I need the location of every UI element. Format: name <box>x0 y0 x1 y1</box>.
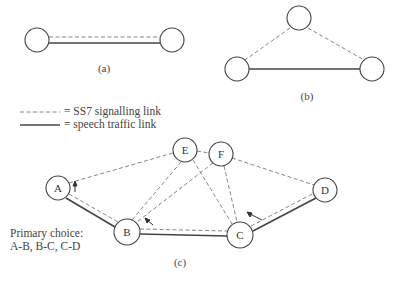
legend-signalling-label: = SS7 signalling link <box>64 105 161 118</box>
caption-c: (c) <box>174 256 187 269</box>
node-circle <box>25 28 49 52</box>
link-C-D-speech <box>253 198 316 231</box>
diagram-c: A B C D E F (c) <box>46 138 337 269</box>
link-B-C-signalling <box>140 229 227 231</box>
caption-b: (b) <box>301 90 314 103</box>
node-label-C: C <box>236 229 243 241</box>
link-C-D-signalling <box>251 193 314 226</box>
link-A-B-signalling <box>69 194 118 222</box>
node-circle <box>360 57 384 81</box>
node-label-B: B <box>123 226 130 238</box>
caption-a: (a) <box>98 62 111 75</box>
signalling-link <box>308 28 364 60</box>
link-A-B-speech <box>66 198 115 227</box>
link-B-C-speech <box>140 234 227 236</box>
primary-choice-value: A-B, B-C, C-D <box>10 240 80 253</box>
link-E-B <box>132 162 181 220</box>
node-label-E: E <box>182 144 189 156</box>
link-E-C <box>193 160 232 224</box>
signalling-link <box>245 28 290 60</box>
diagram-b: (b) <box>225 6 384 103</box>
arrow-icon <box>145 218 153 225</box>
link-F-C <box>224 166 237 222</box>
arrow-icon <box>73 181 77 192</box>
link-F-D <box>232 158 314 185</box>
node-label-A: A <box>54 182 62 194</box>
link-A-E <box>69 153 173 183</box>
node-label-D: D <box>321 184 329 196</box>
node-circle <box>287 6 311 30</box>
legend-speech-label: = speech traffic link <box>64 118 156 131</box>
arrow-icon <box>247 212 262 220</box>
diagram-a: (a) <box>25 28 184 75</box>
link-E-F <box>197 151 209 153</box>
node-label-F: F <box>218 148 224 160</box>
primary-choice-title: Primary choice: <box>10 227 83 240</box>
link-F-B <box>137 163 213 222</box>
node-circle <box>160 28 184 52</box>
node-circle <box>225 57 249 81</box>
